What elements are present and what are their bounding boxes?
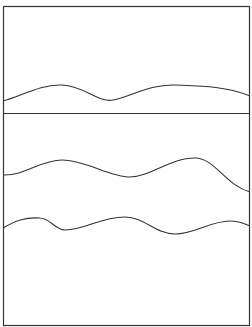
- wave-curve-2: [3, 158, 250, 192]
- wave-curve-1: [3, 85, 250, 101]
- line-drawing: [0, 0, 252, 327]
- wave-curve-3: [3, 217, 250, 234]
